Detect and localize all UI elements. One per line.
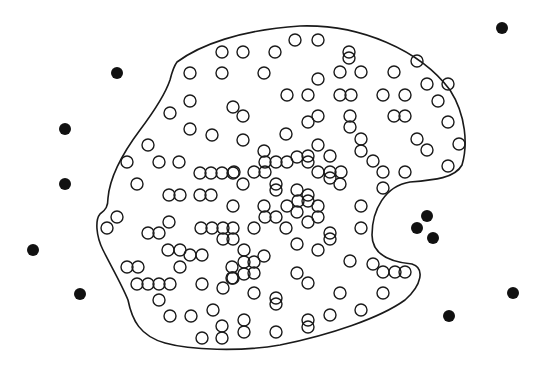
filled-point [496,22,508,34]
filled-point [411,222,423,234]
filled-point [59,178,71,190]
filled-point [59,123,71,135]
filled-point [421,210,433,222]
filled-point [111,67,123,79]
background [0,0,546,376]
point-set-diagram [0,0,546,376]
filled-point [27,244,39,256]
filled-point [443,310,455,322]
filled-point [507,287,519,299]
filled-point [427,232,439,244]
filled-point [74,288,86,300]
